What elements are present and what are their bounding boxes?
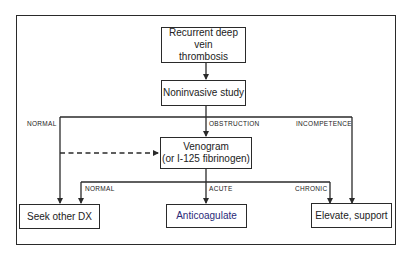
edge-label-normal-2: NORMAL bbox=[85, 185, 115, 192]
node-recurrent-dvt-line2: thrombosis bbox=[162, 51, 245, 63]
node-recurrent-dvt: Recurrent deep vein thrombosis bbox=[161, 27, 246, 63]
node-venogram: Venogram (or I-125 fibrinogen) bbox=[160, 137, 252, 169]
node-venogram-line1: Venogram bbox=[162, 141, 250, 153]
node-recurrent-dvt-line1: Recurrent deep vein bbox=[162, 27, 245, 51]
edge-label-incompetence: INCOMPETENCE bbox=[296, 120, 352, 127]
node-venogram-line2: (or I-125 fibrinogen) bbox=[162, 153, 250, 165]
node-noninvasive-study-label: Noninvasive study bbox=[163, 87, 244, 99]
node-seek-other-dx: Seek other DX bbox=[19, 204, 100, 229]
node-anticoagulate-label: Anticoagulate bbox=[176, 210, 237, 222]
node-anticoagulate: Anticoagulate bbox=[166, 204, 247, 228]
edge-label-obstruction: OBSTRUCTION bbox=[209, 120, 260, 127]
edge-label-normal-1: NORMAL bbox=[27, 120, 57, 127]
node-elevate-support: Elevate, support bbox=[311, 203, 392, 228]
edge-label-chronic: CHRONIC bbox=[295, 185, 327, 192]
node-noninvasive-study: Noninvasive study bbox=[161, 80, 246, 106]
node-elevate-support-label: Elevate, support bbox=[315, 210, 387, 222]
edge-label-acute: ACUTE bbox=[209, 185, 233, 192]
node-seek-other-dx-label: Seek other DX bbox=[27, 211, 92, 223]
